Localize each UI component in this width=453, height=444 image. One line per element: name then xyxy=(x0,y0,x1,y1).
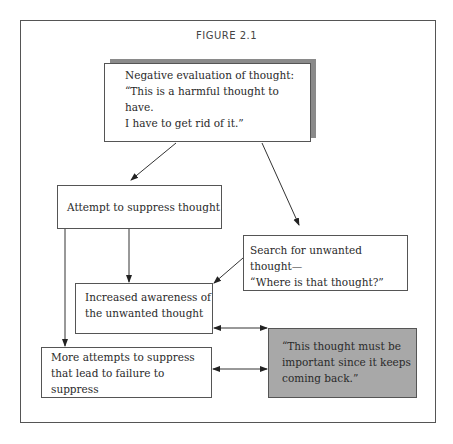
arrows-layer xyxy=(0,0,453,444)
arrow-evaluation-to-search xyxy=(262,143,299,225)
arrow-evaluation-to-attempt xyxy=(131,143,176,180)
arrow-search-to-awareness xyxy=(214,258,243,283)
